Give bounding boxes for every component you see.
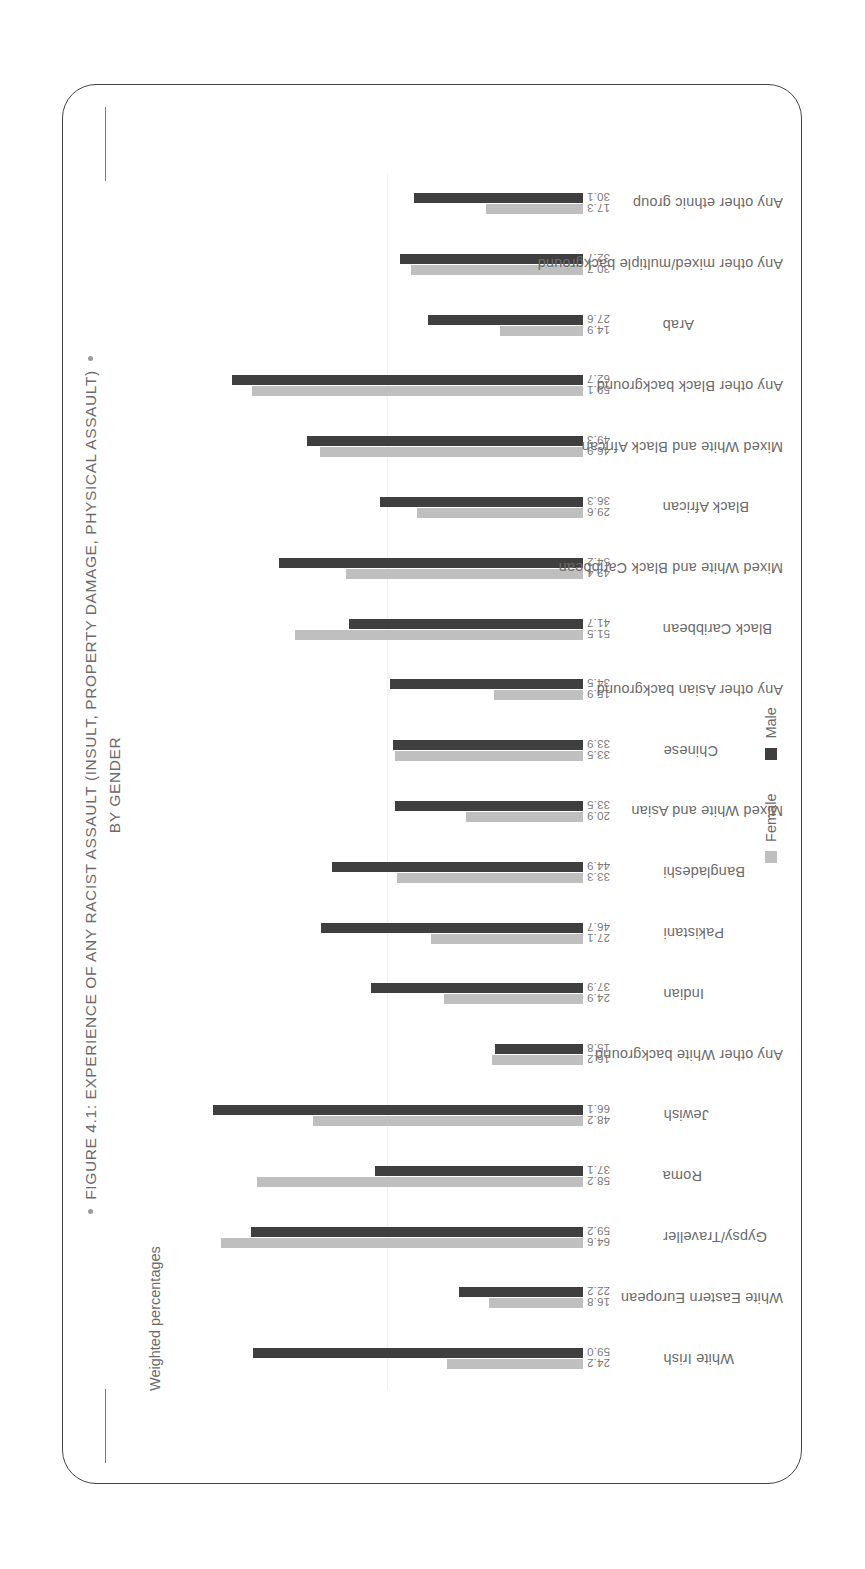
bar-male[interactable] (370, 983, 582, 993)
bar-group (191, 720, 583, 781)
bar-male[interactable] (428, 314, 583, 324)
title-rule-left (105, 1389, 106, 1463)
bar-female[interactable] (492, 1055, 583, 1065)
bar-group (191, 963, 583, 1024)
bar-male[interactable] (379, 496, 582, 506)
data-label-male: 66.1 (587, 1104, 661, 1114)
data-label-group: 24.259.0 (587, 1328, 661, 1389)
data-label-female: 33.5 (587, 751, 661, 761)
bar-group (191, 1145, 583, 1206)
bar-female[interactable] (252, 386, 583, 396)
bar-female[interactable] (417, 507, 583, 517)
data-label-female: 24.2 (587, 1359, 661, 1369)
bar-group (191, 173, 583, 234)
bar-male[interactable] (306, 436, 582, 446)
data-label-female: 58.2 (587, 1176, 661, 1186)
bar-male[interactable] (349, 618, 583, 628)
rotation-container: FIGURE 4.1: EXPERIENCE OF ANY RACIST ASS… (63, 85, 803, 1485)
bar-group (191, 1206, 583, 1267)
legend-label-male: Male (763, 707, 779, 738)
legend-swatch-female-icon (765, 850, 777, 862)
bar-group (191, 537, 583, 598)
bar-group (191, 659, 583, 720)
bar-male[interactable] (393, 740, 583, 750)
bar-male[interactable] (231, 375, 582, 385)
bar-female[interactable] (257, 1176, 583, 1186)
data-label-male: 37.9 (587, 983, 661, 993)
bar-male[interactable] (494, 1044, 582, 1054)
figure-title-line-2: BY GENDER (103, 85, 127, 1485)
bar-group (191, 598, 583, 659)
figure-title-text: FIGURE 4.1: EXPERIENCE OF ANY RACIST ASS… (82, 370, 99, 1199)
title-dot-left-icon (87, 1208, 92, 1213)
bar-female[interactable] (396, 872, 582, 882)
bar-male[interactable] (395, 800, 583, 810)
legend-item-female[interactable]: Female (763, 793, 779, 862)
data-label-male: 59.2 (587, 1226, 661, 1236)
bar-female[interactable] (447, 1359, 583, 1369)
bar-female[interactable] (313, 1115, 583, 1125)
page-root: FIGURE 4.1: EXPERIENCE OF ANY RACIST ASS… (0, 0, 865, 1569)
bar-male[interactable] (212, 1104, 582, 1114)
legend-swatch-male-icon (765, 747, 777, 759)
data-label-female: 51.5 (587, 629, 661, 639)
bar-group (191, 781, 583, 842)
data-label-female: 29.6 (587, 507, 661, 517)
data-label-female: 64.6 (587, 1237, 661, 1247)
bar-group (191, 233, 583, 294)
bar-male[interactable] (389, 679, 582, 689)
bar-male[interactable] (251, 1226, 583, 1236)
bar-group (191, 294, 583, 355)
data-label-group: 64.659.2 (587, 1206, 661, 1267)
data-label-female: 14.9 (587, 325, 661, 335)
rotated-figure-wrapper: FIGURE 4.1: EXPERIENCE OF ANY RACIST ASS… (0, 0, 865, 1569)
data-label-group: 27.146.7 (587, 902, 661, 963)
data-label-group: 33.533.9 (587, 720, 661, 781)
bar-group (191, 902, 583, 963)
bar-series-container (191, 173, 583, 1389)
bar-group (191, 1024, 583, 1085)
bar-group (191, 841, 583, 902)
bar-female[interactable] (395, 751, 583, 761)
bar-female[interactable] (320, 447, 583, 457)
figure-subnote: Weighted percentages (147, 1246, 163, 1391)
data-label-male: 41.7 (587, 618, 661, 628)
data-label-male: 36.3 (587, 496, 661, 506)
bar-female[interactable] (465, 811, 582, 821)
bar-male[interactable] (331, 861, 582, 871)
bar-female[interactable] (499, 325, 582, 335)
data-label-male: 27.6 (587, 314, 661, 324)
bar-male[interactable] (458, 1287, 582, 1297)
figure: FIGURE 4.1: EXPERIENCE OF ANY RACIST ASS… (63, 85, 803, 1485)
chart-legend: Female Male (763, 85, 779, 1485)
bar-male[interactable] (321, 922, 583, 932)
data-label-female: 27.1 (587, 933, 661, 943)
bar-female[interactable] (431, 933, 583, 943)
data-label-female: 33.3 (587, 872, 661, 882)
bar-male[interactable] (414, 192, 583, 202)
legend-item-male[interactable]: Male (763, 707, 779, 759)
data-label-row: 24.259.016.822.264.659.258.237.148.266.1… (587, 173, 661, 1389)
bar-female[interactable] (488, 1298, 582, 1308)
data-label-group: 51.541.7 (587, 598, 661, 659)
data-label-male: 59.0 (587, 1348, 661, 1358)
bar-group (191, 1267, 583, 1328)
bar-female[interactable] (486, 203, 583, 213)
bar-female[interactable] (493, 690, 582, 700)
bar-female[interactable] (221, 1237, 583, 1247)
data-label-male: 46.7 (587, 922, 661, 932)
data-label-group: 33.344.9 (587, 841, 661, 902)
bar-group (191, 1085, 583, 1146)
bar-female[interactable] (443, 994, 582, 1004)
plot-area (191, 173, 583, 1389)
bar-male[interactable] (252, 1348, 582, 1358)
data-label-group: 29.636.3 (587, 477, 661, 538)
legend-label-female: Female (763, 793, 779, 841)
data-label-male: 44.9 (587, 861, 661, 871)
bar-group (191, 416, 583, 477)
bar-male[interactable] (375, 1165, 583, 1175)
bar-group (191, 1328, 583, 1389)
bar-female[interactable] (345, 568, 582, 578)
bar-male[interactable] (279, 557, 583, 567)
bar-female[interactable] (294, 629, 582, 639)
